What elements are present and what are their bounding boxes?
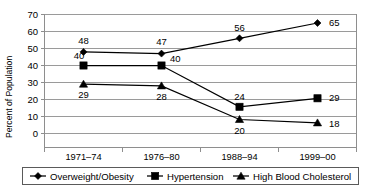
data-label-cholesterol-1: 28 [156, 91, 167, 102]
chart-container: 70 60 50 40 30 20 10 0 Percent of Popula… [0, 0, 368, 188]
legend-item-hypertension[interactable]: Hypertension [147, 171, 224, 182]
data-label-overweight-2: 56 [234, 22, 245, 33]
data-label-overweight-1: 47 [156, 36, 167, 47]
data-label-cholesterol-3: 18 [329, 118, 340, 129]
legend-label-hypertension: Hypertension [167, 171, 224, 182]
data-label-cholesterol-2: 20 [234, 125, 245, 136]
y-tick-label-50: 50 [27, 43, 38, 54]
data-point-hypertension-3[interactable] [314, 95, 321, 102]
legend-label-high-blood-cholesterol: High Blood Cholesterol [253, 171, 351, 182]
chart-legend: Overweight/Obesity Hypertension High Blo… [23, 168, 359, 185]
data-label-cholesterol-0: 29 [78, 89, 89, 100]
data-label-overweight-0: 48 [78, 35, 89, 46]
x-tick-label-2: 1988–94 [221, 152, 257, 162]
data-label-hypertension-2: 24 [234, 91, 245, 102]
data-point-hypertension-2[interactable] [236, 103, 243, 110]
y-tick-label-0: 0 [33, 128, 38, 139]
data-point-hypertension-0[interactable] [80, 62, 87, 69]
y-axis-title: Percent of Population [4, 56, 14, 138]
x-tick-label-3: 1999–00 [299, 152, 335, 162]
x-tick-label-1: 1976–80 [143, 152, 179, 162]
y-tick-label-70: 70 [27, 9, 38, 20]
y-tick-label-20: 20 [27, 94, 38, 105]
line-chart: 70 60 50 40 30 20 10 0 Percent of Popula… [0, 0, 368, 188]
data-label-hypertension-1: 40 [170, 53, 181, 64]
x-tick-label-0: 1971–74 [65, 152, 101, 162]
y-tick-label-10: 10 [27, 111, 38, 122]
data-label-overweight-3: 65 [329, 17, 340, 28]
square-marker-icon [152, 172, 159, 179]
data-label-hypertension-3: 29 [329, 92, 340, 103]
y-tick-label-30: 30 [27, 77, 38, 88]
y-tick-label-60: 60 [27, 26, 38, 37]
y-tick-label-40: 40 [27, 60, 38, 71]
data-point-hypertension-1[interactable] [158, 62, 165, 69]
data-label-hypertension-0: 40 [74, 50, 85, 61]
legend-label-overweight-obesity: Overweight/Obesity [50, 171, 134, 182]
